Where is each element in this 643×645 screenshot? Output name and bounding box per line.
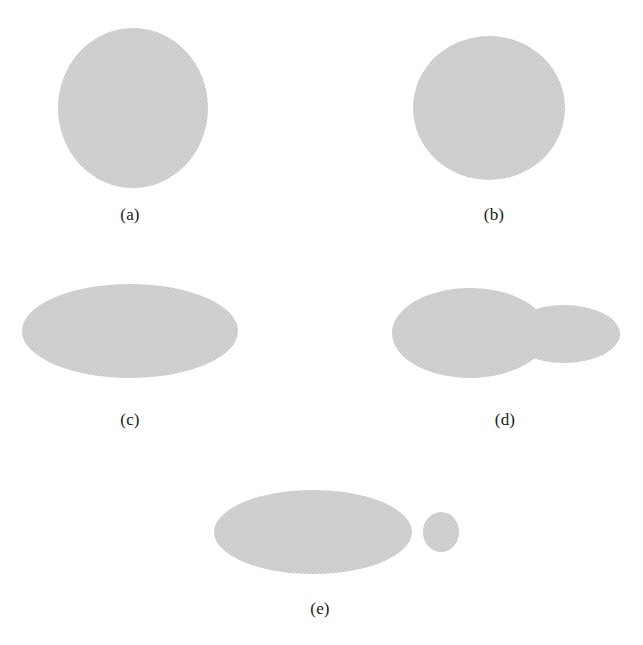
blob-d-right-lobe xyxy=(508,305,620,363)
panel-label-e: (e) xyxy=(310,599,329,618)
panel-e-shape-group xyxy=(214,490,459,574)
blob-a-main xyxy=(58,28,208,188)
panel-label-a: (a) xyxy=(120,205,139,224)
panel-d-shape-group xyxy=(392,288,620,378)
blob-c-main xyxy=(22,284,238,378)
blob-b-main xyxy=(413,36,565,180)
blob-e-main xyxy=(214,490,412,574)
blob-b-speck xyxy=(538,61,544,64)
panel-c-shape-group xyxy=(22,284,238,378)
shape-layer xyxy=(0,0,643,645)
panel-label-c: (c) xyxy=(120,410,139,429)
panel-label-b: (b) xyxy=(484,205,504,224)
panel-a-shape-group xyxy=(58,28,208,188)
panel-label-d: (d) xyxy=(495,410,515,429)
panel-b-shape-group xyxy=(413,36,565,180)
figure-canvas: (a) (b) (c) (d) (e) xyxy=(0,0,643,645)
blob-e-satellite xyxy=(423,512,459,552)
